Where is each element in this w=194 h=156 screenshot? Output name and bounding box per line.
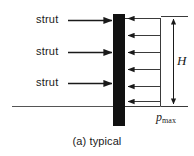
pmax-subscript: max [162, 116, 176, 125]
pressure-arrow-group [128, 19, 160, 102]
diagram-canvas [0, 0, 194, 156]
braced-excavation-diagram: strut strut strut H pmax (a) typical [0, 0, 194, 156]
retaining-wall [113, 14, 125, 126]
strut-label-1: strut [36, 13, 58, 25]
strut-label-2: strut [36, 45, 58, 57]
figure-caption: (a) typical [0, 135, 194, 147]
height-dimension-label: H [177, 53, 186, 69]
strut-arrow-group [68, 21, 112, 84]
pmax-label: pmax [156, 110, 176, 125]
strut-label-3: strut [36, 76, 58, 88]
